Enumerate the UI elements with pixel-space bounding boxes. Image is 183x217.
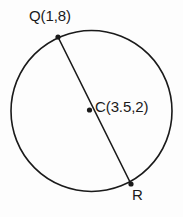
label-point-q: Q(1,8) [29,8,71,24]
label-point-c: C(3.5,2) [95,99,148,115]
geometry-figure: Q(1,8) C(3.5,2) R [0,0,183,217]
circle-diagram-svg [0,0,183,217]
point-marker-c [87,107,92,112]
point-marker-q [55,34,60,39]
label-point-r: R [132,187,143,203]
